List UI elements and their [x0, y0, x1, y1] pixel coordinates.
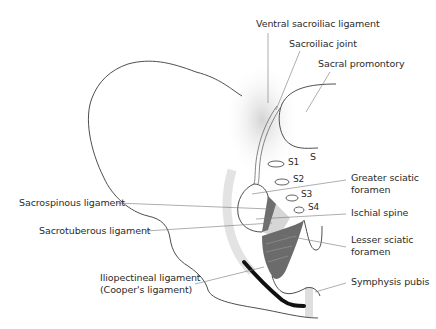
- label-s4: S4: [308, 201, 319, 213]
- symphysis-shading: [305, 287, 313, 317]
- label-iliopectineal-ligament-2: (Cooper's ligament): [100, 284, 192, 296]
- label-sacrospinous-ligament: Sacrospinous ligament: [19, 197, 125, 209]
- leader-sacral-promontory: [306, 72, 330, 112]
- label-symphysis-pubis: Symphysis pubis: [351, 276, 429, 288]
- label-lesser-sciatic-foramen-2: foramen: [351, 246, 390, 258]
- label-sacral-promontory: Sacral promontory: [318, 58, 404, 70]
- foramen-s1: [268, 161, 284, 167]
- label-sacrotuberous-ligament: Sacrotuberous ligament: [39, 225, 150, 237]
- label-sacrum-s: S: [310, 151, 316, 163]
- label-s2: S2: [293, 173, 304, 185]
- label-iliopectineal-ligament-1: Iliopectineal ligament: [100, 272, 200, 284]
- label-ischial-spine: Ischial spine: [351, 207, 408, 219]
- foramen-s2: [275, 179, 289, 185]
- label-greater-sciatic-foramen-2: foramen: [351, 184, 390, 196]
- ischial-spine-curve: [304, 220, 322, 250]
- label-sacroiliac-joint: Sacroiliac joint: [289, 38, 357, 50]
- label-lesser-sciatic-foramen-1: Lesser sciatic: [351, 234, 413, 246]
- diagram-canvas: Ventral sacroiliac ligament Sacroiliac j…: [0, 0, 436, 329]
- label-s1: S1: [288, 156, 299, 168]
- foramen-s3: [286, 195, 298, 201]
- leader-symphysis: [315, 283, 346, 292]
- label-greater-sciatic-foramen-1: Greater sciatic: [351, 172, 419, 184]
- label-ventral-sacroiliac-ligament: Ventral sacroiliac ligament: [256, 18, 380, 30]
- foramen-s4: [294, 207, 304, 213]
- label-s3: S3: [301, 188, 312, 200]
